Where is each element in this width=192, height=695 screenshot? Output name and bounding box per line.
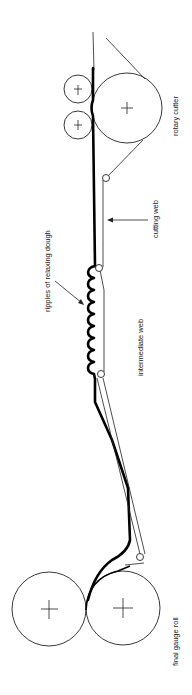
cutter-belt-bottom	[108, 140, 143, 176]
dough-ripples	[88, 266, 95, 379]
intermediate-web-pulley-top	[96, 265, 103, 272]
label-cutting-web: cutting web	[151, 200, 160, 238]
label-ripples: ripples of relaxing dough	[43, 230, 52, 312]
cutting-web-pulley	[103, 175, 110, 182]
intermediate-web-pulley-bottom	[98, 371, 105, 378]
dough-sheeting-diagram: rotary cutter cutting web intermediate w…	[0, 0, 192, 695]
intermediate-web	[96, 265, 146, 566]
label-rotary-cutter: rotary cutter	[171, 95, 180, 136]
incline-end-pulley	[137, 554, 144, 561]
final-gauge-roll	[12, 566, 160, 646]
cutting-web	[103, 175, 149, 268]
dough-sheet	[88, 68, 130, 600]
ripples-pointer	[55, 281, 82, 303]
label-final-gauge-roll: final gauge roll	[171, 617, 180, 666]
rotary-cutter-assembly	[64, 32, 162, 176]
label-intermediate-web: intermediate web	[136, 319, 145, 376]
